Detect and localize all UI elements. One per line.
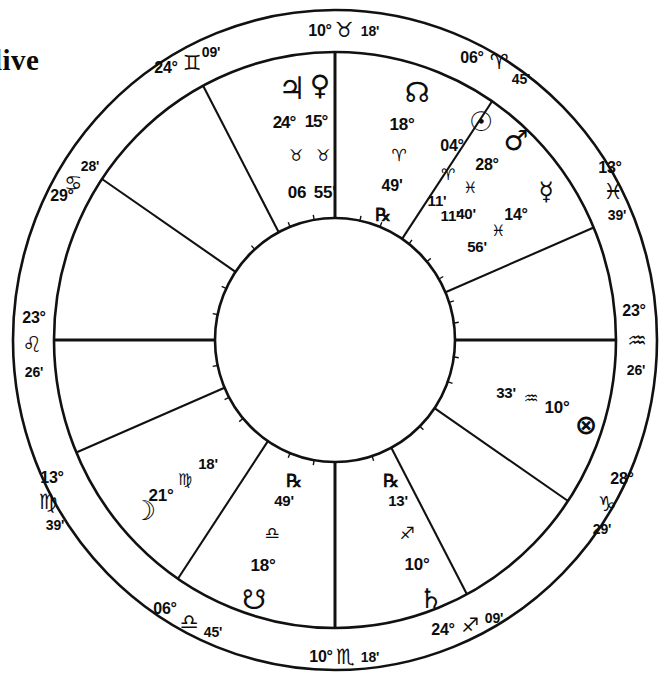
saturn-retrograde-icon: ℞ — [383, 472, 399, 490]
north-node-glyph-icon: ☊ — [405, 79, 430, 107]
mercury-glyph-icon: ☿ — [538, 179, 553, 204]
south-node-glyph-icon: ☋ — [242, 586, 266, 613]
saturn-sign-glyph-sagittarius: ♐ — [399, 525, 414, 542]
cusp-sign-glyph-leo: ♌ — [22, 334, 42, 356]
mercury-degree: 14° — [504, 207, 528, 223]
mercury-sign-glyph-pisces: ♓ — [491, 223, 505, 239]
cusp-degree-ic: 10° — [309, 649, 333, 665]
cusp-sign-glyph-gemini: ♊ — [183, 53, 202, 74]
sun-glyph-icon: ☉ — [469, 108, 493, 135]
cusp-minute-dsc: 26' — [627, 363, 645, 377]
cusp-minute-ic: 18' — [361, 650, 379, 664]
cusp-sign-glyph-libra: ♎ — [180, 612, 199, 633]
sun-degree: 04° — [440, 138, 464, 154]
saturn-degree: 10° — [404, 556, 429, 573]
south-node-minute: 49' — [274, 493, 294, 508]
cusp-sign-glyph-cancer: ♋ — [64, 173, 82, 193]
part-of-fortune-minute: 33' — [496, 385, 516, 400]
moon-degree: 21° — [148, 487, 173, 504]
cusp-sign-glyph-scorpio: ♏ — [336, 647, 355, 668]
jupiter-minute: 06 — [288, 184, 307, 201]
cusp-sign-glyph-taurus: ♉ — [335, 20, 354, 41]
inner-circle — [215, 218, 455, 462]
cusp-minute-c6: 39' — [46, 518, 64, 532]
cusp-sign-glyph-pisces: ♓ — [603, 181, 623, 203]
cusp-minute-mc: 18' — [361, 24, 379, 38]
cusp-degree-c12: 13° — [598, 160, 622, 176]
saturn-glyph-icon: ♄ — [419, 585, 443, 612]
natal-chart-wheel: live 10°♉18'06°♈45'13°♓39'23°♒26'28°♑29'… — [0, 0, 660, 677]
north-node-sign-glyph-aries: ♈ — [391, 147, 406, 164]
tick-mark — [453, 322, 459, 323]
cusp-sign-glyph-capricorn: ♑ — [598, 494, 617, 515]
venus-degree: 15° — [305, 113, 328, 130]
cusp-degree-c9: 24° — [154, 60, 178, 76]
cusp-minute-c12: 39' — [608, 208, 626, 222]
cusp-minute-c2: 29' — [593, 522, 611, 536]
venus-glyph-icon: ♀ — [310, 72, 330, 100]
cusp-degree-mc: 10° — [308, 23, 332, 39]
cusp-degree-c2: 28° — [610, 471, 634, 487]
venus-minute: 55' — [314, 184, 336, 201]
south-node-degree: 18° — [250, 557, 275, 574]
south-node-retrograde-icon: ℞ — [286, 472, 302, 490]
saturn-minute: 13' — [388, 493, 408, 508]
mars-sign-glyph-pisces: ♓ — [463, 180, 477, 196]
tick-mark — [313, 459, 314, 465]
tick-mark — [453, 357, 459, 358]
cusp-degree-dsc: 23° — [622, 303, 646, 319]
moon-minute: 18' — [198, 456, 218, 471]
mars-glyph-icon: ♂ — [504, 127, 529, 155]
cusp-sign-glyph-aquarius: ♒ — [627, 330, 647, 352]
corner-caption: live — [0, 44, 40, 77]
sun-minute: 11' — [428, 193, 447, 208]
south-node-sign-glyph-libra: ♎ — [264, 525, 279, 542]
part-of-fortune-sign-glyph-aquarius: ♒ — [523, 390, 538, 407]
part-of-fortune-degree: 10° — [544, 399, 569, 416]
north-node-minute: 49' — [381, 178, 402, 194]
moon-sign-glyph-virgo: ♍ — [178, 472, 192, 488]
part-of-fortune-glyph-icon: ⊗ — [575, 411, 597, 438]
tick-mark — [313, 215, 314, 221]
cusp-degree-c5: 06° — [153, 601, 177, 617]
sun-sign-glyph-aries: ♈ — [441, 167, 455, 183]
jupiter-sign-glyph-taurus: ♉ — [289, 148, 303, 164]
chart-wheel-svg — [0, 0, 660, 677]
cusp-sign-glyph-sagittarius: ♐ — [461, 615, 479, 635]
cusp-degree-c3: 24° — [431, 622, 455, 638]
cusp-minute-c5: 45' — [204, 625, 222, 639]
mars-degree: 28° — [475, 157, 499, 173]
cusp-degree-asc: 23° — [22, 310, 46, 326]
cusp-minute-c11: 45' — [512, 72, 530, 86]
jupiter-degree: 24° — [273, 114, 296, 131]
jupiter-glyph-icon: ♃ — [278, 73, 306, 104]
cusp-minute-c9: 09' — [202, 45, 220, 59]
mars-minute: 40' — [456, 206, 476, 221]
cusp-sign-glyph-aries: ♈ — [490, 52, 509, 73]
north-node-degree: 18° — [389, 116, 414, 133]
cusp-minute-c3: 09' — [485, 611, 503, 625]
north-node-retrograde-icon: ℞ — [375, 206, 391, 224]
cusp-minute-asc: 26' — [25, 365, 43, 379]
cusp-degree-c11: 06° — [460, 50, 484, 66]
cusp-sign-glyph-virgo: ♍ — [39, 492, 58, 513]
cusp-degree-c6: 13° — [40, 470, 64, 486]
venus-sign-glyph-taurus: ♉ — [316, 148, 330, 164]
mercury-minute: 56' — [467, 239, 487, 254]
cusp-minute-c8: 28' — [81, 159, 99, 173]
